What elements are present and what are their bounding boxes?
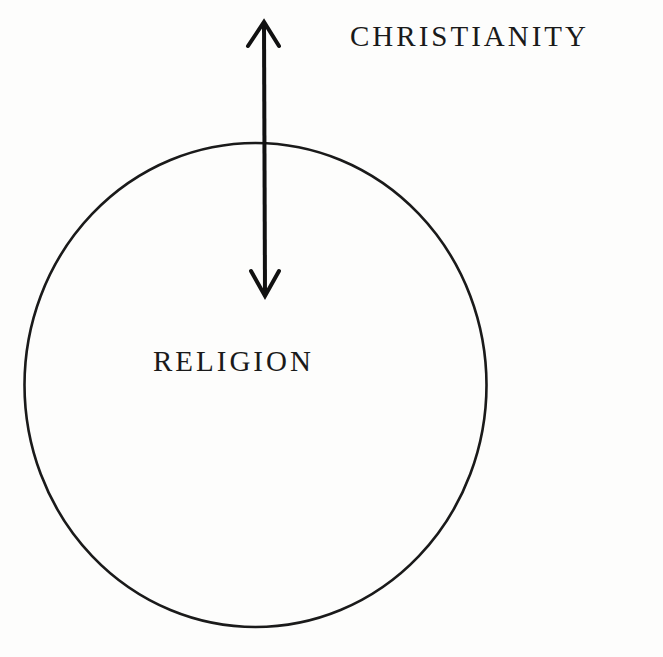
double-headed-arrow bbox=[248, 22, 279, 296]
arrow-shaft bbox=[264, 24, 265, 294]
religion-circle bbox=[25, 143, 487, 627]
christianity-label: CHRISTIANITY bbox=[350, 20, 589, 53]
diagram-canvas bbox=[0, 0, 663, 657]
religion-label: RELIGION bbox=[153, 345, 314, 378]
